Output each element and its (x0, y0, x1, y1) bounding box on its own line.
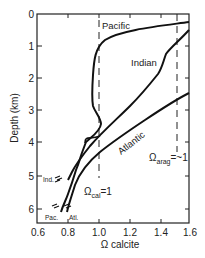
y-tick-3: 3 (28, 105, 34, 116)
x-tick-5: 1.6 (183, 227, 197, 238)
label-omega-arag: Ωarag=~1 (149, 152, 188, 166)
label-indian: Indian (131, 57, 157, 68)
x-axis-title: Ω calcite (101, 239, 140, 250)
plot-frame (37, 14, 189, 223)
right-ticks (185, 46, 189, 209)
label-atl: Atl. (69, 214, 79, 221)
x-tick-1: 0.8 (61, 227, 75, 238)
bottom-ticks (68, 219, 161, 223)
label-ind: Ind. (43, 176, 54, 183)
omega-cal-val: =1 (100, 186, 112, 197)
y-tick-1: 1 (28, 41, 34, 52)
y-tick-5: 5 (28, 171, 34, 182)
left-ticks (37, 46, 42, 209)
label-atlantic: Atlantic (115, 129, 147, 157)
x-tick-0: 0.6 (31, 227, 45, 238)
label-pacific: Pacific (102, 20, 130, 31)
y-axis-title: Depth (km) (9, 93, 20, 142)
label-omega-cal: Ωcal=1 (84, 186, 112, 199)
y-tick-4: 4 (28, 137, 34, 148)
x-tick-3: 1.2 (123, 227, 137, 238)
x-tick-2: 1.0 (92, 227, 106, 238)
label-pac: Pac. (45, 214, 58, 221)
y-tick-0: 0 (28, 9, 34, 20)
chart: 0 1 2 3 4 5 6 0.6 0.8 1.0 1.2 1.4 1.6 Ω … (0, 0, 205, 258)
omega-arag-sub: arag (156, 158, 170, 166)
omega-arag-val: =~1 (171, 152, 189, 163)
y-tick-6: 6 (28, 204, 34, 215)
x-tick-4: 1.4 (154, 227, 168, 238)
y-tick-2: 2 (28, 73, 34, 84)
